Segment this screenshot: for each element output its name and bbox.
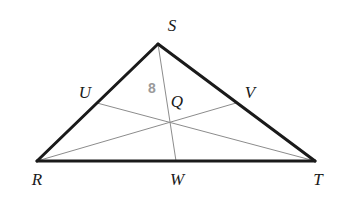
vertex-label-V: V <box>245 84 255 101</box>
vertex-label-S: S <box>168 17 177 34</box>
vertex-label-W: W <box>170 171 184 188</box>
vertex-label-U: U <box>79 84 91 101</box>
vertex-label-R: R <box>32 171 42 188</box>
vertex-label-Q: Q <box>171 93 183 110</box>
measure-label-SQ: 8 <box>148 81 156 95</box>
geometry-figure: S R T U V W Q 8 <box>0 0 337 199</box>
vertex-label-T: T <box>313 171 322 188</box>
